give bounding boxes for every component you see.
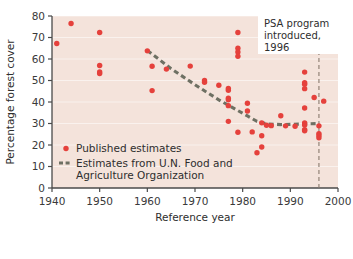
annotation-line: PSA program xyxy=(264,18,329,29)
data-point xyxy=(250,129,255,134)
data-point xyxy=(97,30,102,35)
x-tick-label: 1990 xyxy=(277,195,304,207)
data-point xyxy=(97,63,102,68)
data-point xyxy=(302,69,307,74)
y-tick-label: 10 xyxy=(32,160,45,172)
data-point xyxy=(97,71,102,76)
data-point xyxy=(235,54,240,59)
x-tick-label: 1950 xyxy=(86,195,113,207)
data-point xyxy=(311,95,316,100)
legend-label-fao-line2: Agriculture Organization xyxy=(76,169,204,181)
data-point xyxy=(259,144,264,149)
data-point xyxy=(226,97,231,102)
data-point xyxy=(202,80,207,85)
y-tick-label: 50 xyxy=(32,74,45,86)
data-point xyxy=(278,113,283,118)
data-point xyxy=(188,63,193,68)
data-point xyxy=(254,150,259,155)
annotation-line: introduced, xyxy=(264,30,321,41)
x-tick-label: 1940 xyxy=(39,195,66,207)
data-point xyxy=(68,21,73,26)
data-point xyxy=(316,123,321,128)
data-point xyxy=(316,135,321,140)
data-point xyxy=(292,124,297,129)
data-point xyxy=(149,88,154,93)
y-tick-label: 80 xyxy=(32,10,45,22)
data-point xyxy=(321,98,326,103)
data-point xyxy=(149,64,154,69)
legend-label-published: Published estimates xyxy=(76,142,182,154)
data-point xyxy=(259,120,264,125)
data-point xyxy=(269,123,274,128)
data-point xyxy=(216,83,221,88)
x-tick-label: 1970 xyxy=(182,195,209,207)
y-tick-label: 60 xyxy=(32,53,45,65)
y-tick-label: 30 xyxy=(32,117,45,129)
data-point xyxy=(226,87,231,92)
data-point xyxy=(302,128,307,133)
legend-dot-icon xyxy=(63,146,68,151)
y-tick-label: 40 xyxy=(32,96,45,108)
y-tick-label: 20 xyxy=(32,139,45,151)
x-tick-label: 2000 xyxy=(325,195,352,207)
data-point xyxy=(302,86,307,91)
data-point xyxy=(235,130,240,135)
data-point xyxy=(226,119,231,124)
data-point xyxy=(164,66,169,71)
y-tick-label: 70 xyxy=(32,31,45,43)
y-axis-title: Percentage forest cover xyxy=(4,39,16,165)
forest-cover-chart-figure: 0102030405060708019401950196019701980199… xyxy=(0,0,353,259)
data-point xyxy=(245,108,250,113)
data-point xyxy=(226,103,231,108)
data-point xyxy=(283,123,288,128)
data-point xyxy=(235,30,240,35)
legend-label-fao-line1: Estimates from U.N. Food and xyxy=(76,157,233,169)
data-point xyxy=(302,105,307,110)
chart-svg: 0102030405060708019401950196019701980199… xyxy=(0,0,353,259)
data-point xyxy=(264,123,269,128)
data-point xyxy=(245,101,250,106)
x-axis-title: Reference year xyxy=(155,211,235,223)
x-tick-label: 1980 xyxy=(229,195,256,207)
data-point xyxy=(259,133,264,138)
data-point xyxy=(54,41,59,46)
data-point xyxy=(302,122,307,127)
data-point xyxy=(145,48,150,53)
x-tick-label: 1960 xyxy=(134,195,161,207)
annotation-line: 1996 xyxy=(264,42,289,53)
y-tick-label: 0 xyxy=(38,182,45,194)
